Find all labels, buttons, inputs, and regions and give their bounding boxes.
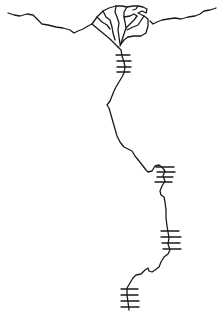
coastline-east: [150, 8, 216, 24]
river-map: [0, 0, 224, 328]
main-channel: [107, 47, 170, 310]
delta-branch: [115, 6, 120, 44]
coastline-west: [8, 13, 92, 33]
delta-branch: [103, 11, 115, 40]
ticks-3: [161, 231, 181, 249]
ticks-4: [121, 289, 139, 307]
ticks-1: [116, 55, 131, 72]
delta-branch: [124, 7, 137, 17]
